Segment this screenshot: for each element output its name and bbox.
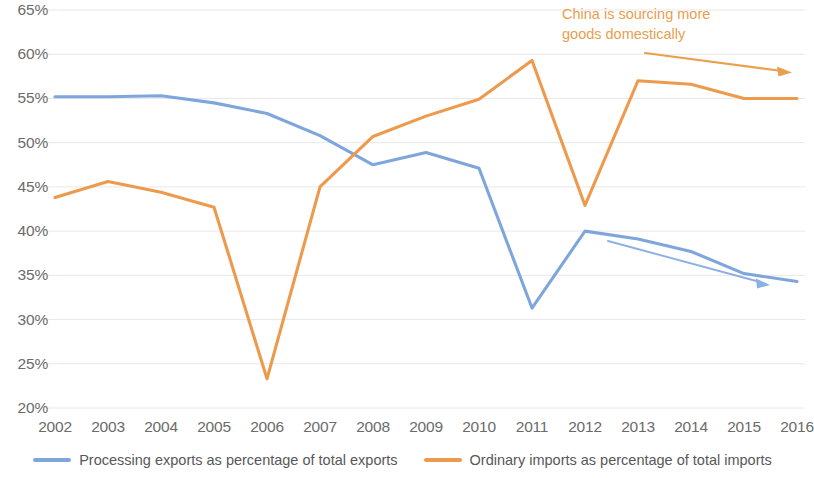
legend-item-processing-exports[interactable]: Processing exports as percentage of tota… — [33, 452, 397, 468]
y-axis-tick-label: 50% — [4, 134, 48, 152]
x-axis-tick-label: 2008 — [356, 418, 390, 436]
x-axis-tick-label: 2011 — [516, 418, 549, 436]
y-axis-tick-label: 20% — [4, 399, 48, 417]
y-axis-tick-label: 65% — [4, 1, 48, 19]
x-axis-tick-label: 2016 — [780, 418, 814, 436]
x-axis-tick-label: 2010 — [462, 418, 496, 436]
legend-item-label: Processing exports as percentage of tota… — [79, 452, 397, 468]
x-axis-tick-label: 2013 — [621, 418, 655, 436]
x-axis-tick-label: 2005 — [197, 418, 231, 436]
legend-item-label: Ordinary imports as percentage of total … — [470, 452, 772, 468]
gridlines-group — [48, 10, 805, 408]
annotation-label-sourcing: China is sourcing more goods domesticall… — [562, 4, 767, 44]
legend-color-swatch — [33, 458, 71, 462]
orange-annotation-arrow — [645, 53, 792, 77]
annotation-line-1: China is sourcing more — [562, 4, 767, 24]
legend-item-ordinary-imports[interactable]: Ordinary imports as percentage of total … — [424, 452, 772, 468]
series-lines-group — [55, 60, 797, 378]
y-axis-tick-label: 30% — [4, 311, 48, 329]
chart-legend: Processing exports as percentage of tota… — [0, 452, 805, 468]
x-axis-tick-label: 2006 — [250, 418, 284, 436]
y-axis-tick-label: 35% — [4, 266, 48, 284]
x-axis-tick-label: 2004 — [144, 418, 178, 436]
series-line-ordinary-imports — [55, 60, 797, 378]
x-axis-tick-label: 2012 — [568, 418, 602, 436]
y-axis-tick-label: 25% — [4, 355, 48, 373]
y-axis-tick-label: 60% — [4, 45, 48, 63]
annotation-line-2: goods domestically — [562, 24, 767, 44]
x-axis-tick-label: 2015 — [727, 418, 761, 436]
series-line-processing-exports — [55, 96, 797, 308]
y-axis-tick-label: 55% — [4, 89, 48, 107]
legend-color-swatch — [424, 458, 462, 462]
x-axis-tick-label: 2014 — [674, 418, 708, 436]
x-axis-tick-label: 2009 — [409, 418, 443, 436]
x-axis-tick-label: 2003 — [91, 418, 125, 436]
x-axis-tick-label: 2007 — [303, 418, 337, 436]
blue-annotation-arrow — [608, 241, 770, 289]
y-axis-tick-label: 45% — [4, 178, 48, 196]
x-axis-tick-label: 2002 — [38, 418, 72, 436]
y-axis-tick-label: 40% — [4, 222, 48, 240]
y-axis-tick-labels: 65%60%55%50%45%40%35%30%25%20% — [0, 0, 48, 420]
